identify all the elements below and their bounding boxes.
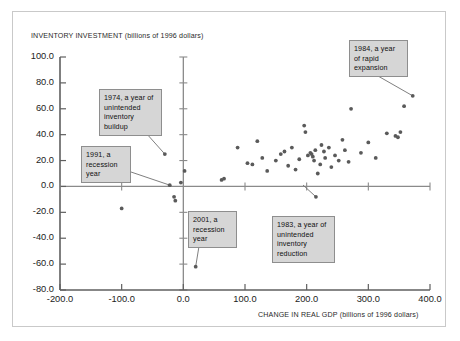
data-point <box>294 168 298 172</box>
annotation-1984: 1984, a year of rapid expansion <box>349 40 408 77</box>
y-tick-label: -60.0 <box>14 258 54 268</box>
data-point <box>163 152 167 156</box>
y-axis-title: INVENTORY INVESTMENT (billions of 1996 d… <box>31 32 204 40</box>
data-point <box>251 163 255 167</box>
y-tick-label: 20.0 <box>14 155 54 165</box>
data-point <box>173 199 177 203</box>
data-point <box>402 104 406 108</box>
data-point <box>297 157 301 161</box>
x-axis-title: CHANGE IN REAL GDP (billions of 1996 dol… <box>258 311 419 319</box>
data-point <box>349 107 353 111</box>
data-point <box>320 143 324 147</box>
y-tick-label: -80.0 <box>14 284 54 294</box>
data-point <box>359 151 363 155</box>
data-point <box>302 124 306 128</box>
x-tick-label: 0.0 <box>156 294 210 304</box>
data-point <box>347 160 351 164</box>
annotation-1991: 1991, a recession year <box>81 146 131 183</box>
x-tick-label: 200.0 <box>280 294 334 304</box>
data-point <box>120 207 124 211</box>
data-point <box>194 265 198 269</box>
y-tick-label: 60.0 <box>14 103 54 113</box>
data-point <box>260 156 264 160</box>
data-point <box>396 135 400 139</box>
data-point <box>274 159 278 163</box>
annotation-leader-line <box>131 172 170 185</box>
data-point <box>314 195 318 199</box>
data-point <box>399 130 403 134</box>
annotation-1983: 1983, a year of unintended inventory red… <box>272 216 335 263</box>
data-point <box>313 148 317 152</box>
data-point <box>411 94 415 98</box>
x-tick-label: -200.0 <box>33 294 87 304</box>
figure: INVENTORY INVESTMENT (billions of 1996 d… <box>0 0 460 341</box>
data-point <box>323 156 327 160</box>
data-point <box>341 138 345 142</box>
data-point <box>183 169 187 173</box>
data-point <box>312 159 316 163</box>
data-point <box>283 150 287 154</box>
data-point <box>337 159 341 163</box>
y-tick-label: -20.0 <box>14 206 54 216</box>
x-tick-label: 300.0 <box>341 294 395 304</box>
y-tick-label: -40.0 <box>14 232 54 242</box>
data-point <box>179 181 183 185</box>
data-point <box>246 161 250 165</box>
data-point <box>329 165 333 169</box>
data-point <box>265 169 269 173</box>
annotation-leader-line <box>146 133 165 154</box>
data-point <box>322 150 326 154</box>
data-point <box>236 146 240 150</box>
data-point <box>318 163 322 167</box>
data-point <box>304 130 308 134</box>
data-point <box>255 139 259 143</box>
data-points <box>120 94 415 269</box>
y-tick-label: 100.0 <box>14 51 54 61</box>
data-point <box>374 156 378 160</box>
data-point <box>316 172 320 176</box>
annotation-1974: 1974, a year of unintended inventory bui… <box>99 89 162 136</box>
data-point <box>327 146 331 150</box>
y-tick-label: 0.0 <box>14 180 54 190</box>
data-point <box>333 153 337 157</box>
y-tick-label: 80.0 <box>14 77 54 87</box>
data-point <box>343 148 347 152</box>
data-point <box>222 177 226 181</box>
data-point <box>172 195 176 199</box>
data-point <box>168 183 172 187</box>
annotation-2001: 2001, a recession year <box>188 211 237 248</box>
x-tick-label: 100.0 <box>218 294 272 304</box>
y-tick-label: 40.0 <box>14 129 54 139</box>
x-tick-label: -100.0 <box>95 294 149 304</box>
data-point <box>279 152 283 156</box>
data-point <box>385 131 389 135</box>
x-tick-label: 400.0 <box>403 294 457 304</box>
data-point <box>286 164 290 168</box>
data-point <box>366 141 370 145</box>
data-point <box>311 155 315 159</box>
data-point <box>290 146 294 150</box>
annotation-leader-line <box>378 76 413 96</box>
